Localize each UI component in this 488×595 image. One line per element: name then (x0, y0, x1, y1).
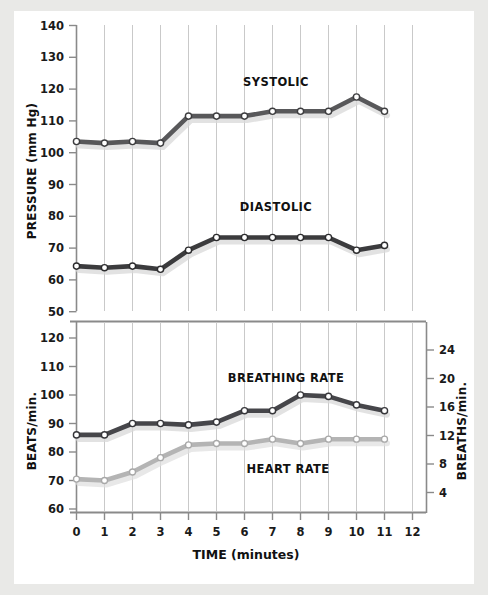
pressure-ytick-130: 130 (40, 50, 64, 64)
x-axis-ticks (77, 513, 413, 520)
heart-rate-series (73, 392, 387, 439)
rate-y2tick-20: 20 (439, 372, 455, 386)
heart-rate-line (77, 395, 385, 435)
pressure-ytick-100: 100 (40, 146, 64, 160)
xtick-11: 11 (376, 525, 392, 539)
xtick-12: 12 (404, 525, 420, 539)
rate-ytick-70: 70 (48, 474, 64, 488)
rate-ytick-110: 110 (40, 360, 64, 374)
rate-panel: 120 110 100 90 80 70 60 BEATS/min. 24 (25, 322, 469, 516)
rate-y2-axis-title: BREATHS/min. (455, 382, 469, 480)
rate-y2tick-4: 4 (439, 486, 447, 500)
pressure-ytick-140: 140 (40, 19, 64, 33)
xtick-1: 1 (100, 525, 108, 539)
rate-y-ticks (69, 338, 77, 509)
pressure-ytick-90: 90 (48, 178, 64, 192)
xtick-7: 7 (268, 525, 276, 539)
rate-ytick-80: 80 (48, 445, 64, 459)
xtick-8: 8 (296, 525, 304, 539)
xtick-4: 4 (184, 525, 192, 539)
rate-ytick-120: 120 (40, 331, 64, 345)
systolic-annotation: SYSTOLIC (243, 75, 309, 89)
pressure-ytick-60: 60 (48, 273, 64, 287)
xtick-5: 5 (212, 525, 220, 539)
pressure-ytick-110: 110 (40, 114, 64, 128)
xtick-2: 2 (128, 525, 136, 539)
heart-rate-annotation: HEART RATE (246, 462, 329, 476)
rate-ytick-60: 60 (48, 502, 64, 516)
diastolic-annotation: DIASTOLIC (240, 200, 312, 214)
xtick-0: 0 (72, 525, 80, 539)
xtick-6: 6 (240, 525, 248, 539)
xtick-10: 10 (348, 525, 364, 539)
pressure-ytick-80: 80 (48, 209, 64, 223)
rate-y-axis-title: BEATS/min. (25, 392, 39, 471)
xtick-9: 9 (324, 525, 332, 539)
pressure-ytick-70: 70 (48, 241, 64, 255)
diastolic-series (73, 234, 387, 273)
rate-y2tick-24: 24 (439, 343, 455, 357)
chart-card: 140 130 120 110 100 90 80 70 60 50 PRESS… (14, 11, 474, 584)
pressure-panel: 140 130 120 110 100 90 80 70 60 50 PRESS… (25, 19, 413, 319)
pressure-y-axis-title: PRESSURE (mm Hg) (25, 103, 39, 239)
rate-y2tick-12: 12 (439, 429, 455, 443)
rate-ytick-100: 100 (40, 388, 64, 402)
chart-svg: 140 130 120 110 100 90 80 70 60 50 PRESS… (14, 11, 474, 584)
rate-ytick-90: 90 (48, 417, 64, 431)
rate-y2tick-16: 16 (439, 400, 455, 414)
systolic-series (73, 94, 387, 147)
xtick-3: 3 (156, 525, 164, 539)
breathing-rate-series (74, 436, 388, 484)
pressure-ytick-120: 120 (40, 82, 64, 96)
x-axis-title: TIME (minutes) (193, 547, 300, 562)
physiology-chart-figure: 140 130 120 110 100 90 80 70 60 50 PRESS… (14, 11, 474, 584)
breathing-rate-annotation: BREATHING RATE (228, 371, 344, 385)
rate-y2tick-8: 8 (439, 457, 447, 471)
pressure-ytick-50: 50 (48, 305, 64, 319)
rate-y2-ticks (427, 350, 435, 493)
